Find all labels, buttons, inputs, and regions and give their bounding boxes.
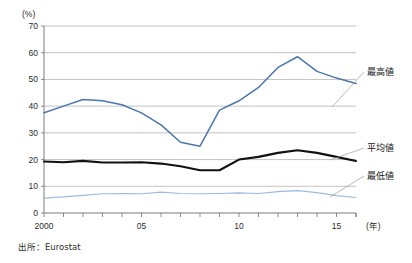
x-axis-tick-label: 2000: [35, 221, 54, 231]
series-line-最低値: [44, 191, 356, 198]
source-note: 出所：Eurostat: [18, 242, 81, 252]
leader-line-最高値: [332, 72, 364, 107]
series-line-平均値: [44, 150, 356, 170]
y-axis-tick-label: 40: [29, 101, 39, 111]
series-label-最低値: 最低値: [367, 170, 394, 181]
y-axis-tick-label: 10: [29, 181, 39, 191]
y-axis-tick-label: 70: [29, 21, 39, 31]
series-label-平均値: 平均値: [367, 142, 394, 153]
y-axis-tick-label: 0: [33, 208, 38, 218]
y-axis-tick-label: 20: [29, 155, 39, 165]
line-chart: 0102030405060702000051015(%)(年)最高値平均値最低値…: [0, 0, 412, 263]
series-label-最高値: 最高値: [367, 66, 394, 77]
y-axis-unit-label: (%): [22, 9, 35, 19]
x-axis-tick-label: 10: [234, 221, 244, 231]
y-axis-tick-label: 30: [29, 128, 39, 138]
y-axis-tick-label: 60: [29, 48, 39, 58]
y-axis-tick-label: 50: [29, 74, 39, 84]
x-axis-tick-label: 15: [332, 221, 342, 231]
x-axis-tick-label: 05: [137, 221, 147, 231]
x-axis-unit-label: (年): [366, 221, 381, 231]
chart-container: 0102030405060702000051015(%)(年)最高値平均値最低値…: [0, 0, 412, 263]
